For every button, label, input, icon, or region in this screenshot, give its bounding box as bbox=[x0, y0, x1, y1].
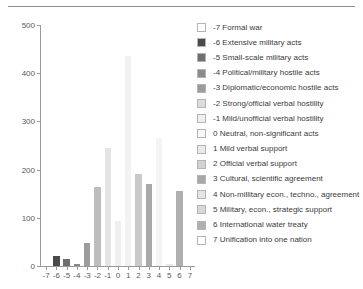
bar bbox=[125, 56, 131, 266]
legend-item[interactable]: -7 Formal war bbox=[197, 20, 363, 35]
legend-item-label: 4 Non-millitary econ., techno., agreemen… bbox=[213, 190, 359, 200]
y-axis-tick-label: 0 bbox=[0, 261, 40, 272]
legend-item[interactable]: 2 Official verbal support bbox=[197, 157, 363, 172]
bar bbox=[53, 256, 59, 266]
bar-chart-plot-area: 0100200300400500 -7-6-5-4-3-2-101234567 bbox=[0, 14, 200, 282]
legend-item[interactable]: 7 Unification into one nation bbox=[197, 233, 363, 248]
y-axis-tick-label: 300 bbox=[0, 116, 40, 127]
bar bbox=[166, 264, 172, 266]
legend-swatch-icon bbox=[197, 160, 206, 169]
legend-item[interactable]: -4 Political/military hostile acts bbox=[197, 66, 363, 81]
bar bbox=[156, 138, 162, 266]
legend-swatch-icon bbox=[197, 114, 206, 123]
legend-item-label: -6 Extensive military acts bbox=[213, 38, 301, 48]
x-axis-tick-label: 7 bbox=[183, 270, 197, 282]
bar bbox=[63, 259, 69, 266]
legend-swatch-icon bbox=[197, 99, 206, 108]
legend-item[interactable]: -3 Diplomatic/economic hostile acts bbox=[197, 81, 363, 96]
bar bbox=[115, 221, 121, 266]
legend-swatch-icon bbox=[197, 236, 206, 245]
legend-swatch-icon bbox=[197, 38, 206, 47]
legend-item-label: 2 Official verbal support bbox=[213, 159, 297, 169]
legend-item-label: 1 Mild verbal support bbox=[213, 144, 287, 154]
legend-item-label: -5 Small-scale military acts bbox=[213, 53, 308, 63]
legend-item[interactable]: -6 Extensive military acts bbox=[197, 35, 363, 50]
bar bbox=[105, 148, 111, 266]
legend-item[interactable]: -2 Strong/official verbal hostility bbox=[197, 96, 363, 111]
legend-swatch-icon bbox=[197, 190, 206, 199]
bar bbox=[84, 243, 90, 266]
legend-item-label: 3 Cultural, scientific agreement bbox=[213, 174, 323, 184]
x-axis-tick-group: -7-6-5-4-3-2-101234567 bbox=[41, 267, 195, 283]
bar bbox=[135, 174, 141, 266]
y-axis-tick-label: 200 bbox=[0, 165, 40, 176]
legend-item-label: -1 Mild/unofficial verbal hostility bbox=[213, 114, 324, 124]
legend-item-label: -4 Political/military hostile acts bbox=[213, 68, 320, 78]
legend-swatch-icon bbox=[197, 69, 206, 78]
legend-item[interactable]: 0 Neutral, non-significant acts bbox=[197, 126, 363, 141]
legend-item-label: 7 Unification into one nation bbox=[213, 235, 312, 245]
legend-swatch-icon bbox=[197, 175, 206, 184]
legend-item[interactable]: 5 Military, econ., strategic support bbox=[197, 202, 363, 217]
legend-item[interactable]: -1 Mild/unofficial verbal hostility bbox=[197, 111, 363, 126]
y-axis-tick-label: 500 bbox=[0, 20, 40, 31]
y-axis-tick-label: 400 bbox=[0, 68, 40, 79]
legend-item[interactable]: 4 Non-millitary econ., techno., agreemen… bbox=[197, 187, 363, 202]
bar bbox=[94, 187, 100, 266]
legend-item-label: -7 Formal war bbox=[213, 23, 262, 33]
legend-swatch-icon bbox=[197, 53, 206, 62]
legend-item-label: 0 Neutral, non-significant acts bbox=[213, 129, 318, 139]
legend-item[interactable]: 3 Cultural, scientific agreement bbox=[197, 172, 363, 187]
bar bbox=[176, 191, 182, 266]
chart-legend: -7 Formal war-6 Extensive military acts-… bbox=[197, 20, 363, 248]
legend-item-label: -2 Strong/official verbal hostility bbox=[213, 99, 324, 109]
chart-page: 0100200300400500 -7-6-5-4-3-2-101234567 … bbox=[0, 0, 363, 289]
bar bbox=[146, 184, 152, 266]
bar bbox=[74, 264, 80, 266]
top-divider bbox=[8, 6, 355, 7]
legend-item-label: 5 Military, econ., strategic support bbox=[213, 205, 332, 215]
legend-swatch-icon bbox=[197, 23, 206, 32]
legend-swatch-icon bbox=[197, 129, 206, 138]
legend-swatch-icon bbox=[197, 221, 206, 230]
bar-series bbox=[41, 25, 195, 266]
legend-item-label: -3 Diplomatic/economic hostile acts bbox=[213, 83, 338, 93]
y-axis-tick-label: 100 bbox=[0, 213, 40, 224]
legend-item[interactable]: 1 Mild verbal support bbox=[197, 142, 363, 157]
legend-swatch-icon bbox=[197, 145, 206, 154]
legend-swatch-icon bbox=[197, 205, 206, 214]
legend-swatch-icon bbox=[197, 84, 206, 93]
legend-item[interactable]: -5 Small-scale military acts bbox=[197, 50, 363, 65]
legend-item[interactable]: 6 International water treaty bbox=[197, 217, 363, 232]
legend-item-label: 6 International water treaty bbox=[213, 220, 308, 230]
